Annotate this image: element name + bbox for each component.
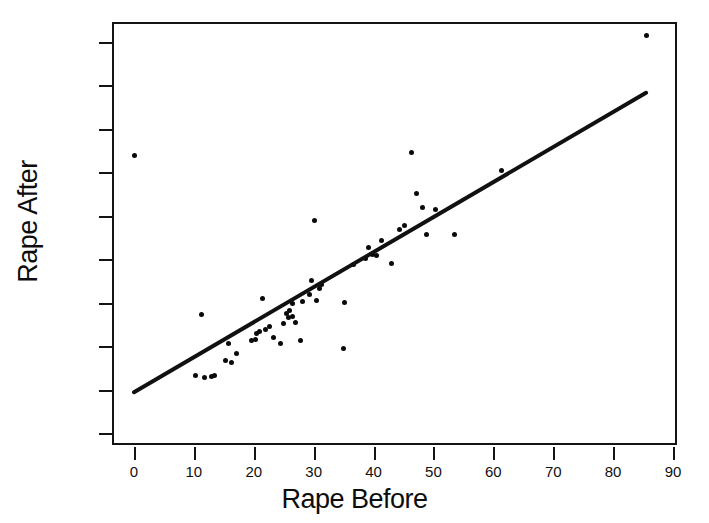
data-point: [281, 321, 286, 326]
data-point: [309, 278, 314, 283]
x-tick-90: [673, 447, 675, 460]
data-point: [234, 351, 239, 356]
data-point: [223, 358, 228, 363]
x-tick-20: [254, 447, 256, 460]
data-point: [420, 205, 425, 210]
data-point: [260, 296, 265, 301]
y-tick-10: [99, 390, 112, 392]
data-point: [293, 320, 298, 325]
data-point: [300, 299, 305, 304]
data-point: [132, 153, 137, 158]
x-tick-30: [314, 447, 316, 460]
x-tick-label-10: 10: [171, 464, 217, 479]
y-tick-70: [99, 129, 112, 131]
y-tick-80: [99, 85, 112, 87]
y-tick-90: [99, 42, 112, 44]
data-point: [314, 298, 319, 303]
x-tick-label-80: 80: [590, 464, 636, 479]
data-point: [499, 168, 504, 173]
data-point: [226, 341, 231, 346]
x-tick-label-20: 20: [231, 464, 277, 479]
x-tick-label-50: 50: [410, 464, 456, 479]
y-tick-20: [99, 346, 112, 348]
data-point: [193, 373, 198, 378]
x-tick-0: [134, 447, 136, 460]
y-tick-50: [99, 216, 112, 218]
data-point: [374, 253, 379, 258]
data-point: [414, 191, 419, 196]
y-tick-60: [99, 172, 112, 174]
data-point: [199, 312, 204, 317]
plot-area: [112, 22, 677, 445]
x-tick-10: [194, 447, 196, 460]
data-point: [202, 375, 207, 380]
x-tick-label-40: 40: [351, 464, 397, 479]
data-point: [287, 308, 292, 313]
x-tick-label-60: 60: [470, 464, 516, 479]
x-tick-label-0: 0: [111, 464, 157, 479]
y-tick-0: [99, 433, 112, 435]
data-point: [257, 329, 262, 334]
data-point: [290, 314, 295, 319]
data-point: [397, 227, 402, 232]
data-point: [379, 238, 384, 243]
data-point: [229, 360, 234, 365]
scatter-plot-figure: Rape After Rape Before 01020304050607080…: [0, 0, 709, 523]
data-point: [389, 261, 394, 266]
data-point: [307, 292, 312, 297]
data-point: [341, 346, 346, 351]
x-tick-label-70: 70: [530, 464, 576, 479]
data-point: [452, 232, 457, 237]
data-point: [644, 33, 649, 38]
data-point: [278, 341, 283, 346]
x-tick-80: [613, 447, 615, 460]
data-point: [409, 150, 414, 155]
data-point: [290, 301, 295, 306]
data-point: [424, 232, 429, 237]
data-point: [267, 324, 272, 329]
data-point: [212, 373, 217, 378]
x-tick-50: [433, 447, 435, 460]
data-point: [253, 337, 258, 342]
data-point: [402, 223, 407, 228]
x-tick-40: [374, 447, 376, 460]
data-point: [319, 282, 324, 287]
data-point: [271, 335, 276, 340]
data-point: [366, 245, 371, 250]
data-point: [342, 300, 347, 305]
x-axis-title: Rape Before: [0, 484, 709, 515]
x-tick-label-30: 30: [291, 464, 337, 479]
data-point: [298, 338, 303, 343]
data-point: [433, 207, 438, 212]
x-tick-60: [493, 447, 495, 460]
x-tick-70: [553, 447, 555, 460]
y-tick-40: [99, 259, 112, 261]
data-point: [312, 218, 317, 223]
x-tick-label-90: 90: [650, 464, 696, 479]
y-axis-title: Rape After: [13, 112, 44, 332]
y-tick-30: [99, 303, 112, 305]
data-point: [351, 262, 356, 267]
data-point: [317, 286, 322, 291]
data-point: [363, 256, 368, 261]
